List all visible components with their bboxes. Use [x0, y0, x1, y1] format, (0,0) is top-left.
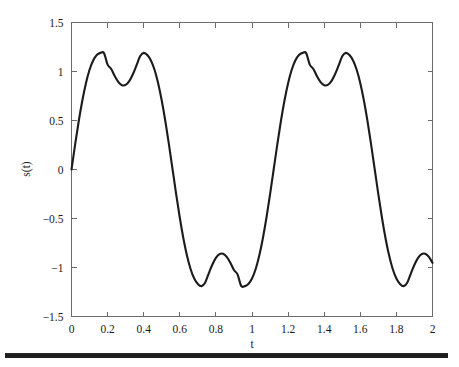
- axes-frame: [72, 23, 433, 317]
- y-tick-label: 0.5: [49, 115, 64, 127]
- x-tick-label: 0: [69, 323, 75, 335]
- y-tick-label: −1: [51, 262, 63, 274]
- x-tick-label: 0.6: [173, 323, 188, 335]
- y-tick-label: −0.5: [43, 213, 64, 225]
- x-axis-tick-labels: 00.20.40.60.811.21.41.61.82: [69, 323, 436, 335]
- data-series-line: [72, 52, 433, 287]
- y-axis-title: s(t): [20, 161, 33, 177]
- x-tick-label: 2: [430, 323, 436, 335]
- x-tick-label: 1.2: [281, 323, 296, 335]
- y-tick-label: −1.5: [43, 311, 64, 323]
- y-tick-label: 0: [58, 164, 64, 176]
- y-tick-label: 1.5: [49, 17, 64, 29]
- plot-area: 00.20.40.60.811.21.41.61.82 −1.5−1−0.500…: [0, 0, 459, 367]
- x-tick-label: 0.2: [100, 323, 115, 335]
- x-axis-title: t: [250, 338, 254, 350]
- x-tick-label: 1.4: [317, 323, 332, 335]
- x-tick-label: 0.8: [209, 323, 224, 335]
- y-axis-ticks: [72, 23, 433, 317]
- x-axis-ticks: [72, 23, 433, 317]
- y-axis-tick-labels: −1.5−1−0.500.511.5: [43, 17, 64, 323]
- x-tick-label: 1.6: [353, 323, 368, 335]
- x-tick-label: 0.4: [137, 323, 152, 335]
- x-tick-label: 1.8: [389, 323, 404, 335]
- bottom-horizontal-rule: [5, 353, 448, 358]
- figure-canvas: 00.20.40.60.811.21.41.61.82 −1.5−1−0.500…: [0, 0, 459, 367]
- x-tick-label: 1: [249, 323, 255, 335]
- y-tick-label: 1: [58, 66, 64, 78]
